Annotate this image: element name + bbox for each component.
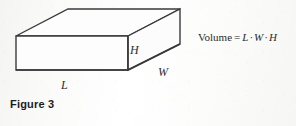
length-label: L xyxy=(61,79,68,91)
box-front-face xyxy=(16,36,128,70)
height-label: H xyxy=(130,44,139,56)
volume-formula: Volume=L·W·H xyxy=(198,32,277,43)
formula-equals: = xyxy=(232,31,242,43)
formula-term-width: W xyxy=(254,31,263,43)
width-label: W xyxy=(158,66,168,78)
formula-term-height: H xyxy=(269,31,277,43)
figure-caption: Figure 3 xyxy=(10,98,54,110)
figure-container: H L W Volume=L·W·H Figure 3 xyxy=(0,0,296,126)
formula-lhs: Volume xyxy=(198,31,232,43)
